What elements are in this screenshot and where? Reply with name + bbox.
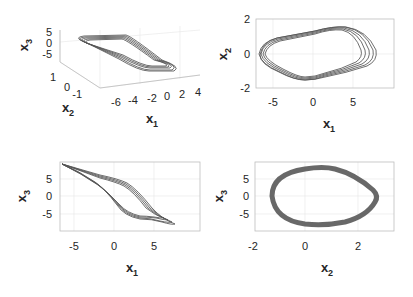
xtick-5: 5 [350,96,356,108]
orbit-3d [79,35,177,71]
panel-x1-x3: 5 0 -5 -5 0 5 x1 x3 [0,150,205,297]
orbit-x1-x2 [259,27,376,80]
zlabel-x3: x3 [16,39,34,51]
ytick-0: 0 [64,81,70,93]
ytick-neg2: -2 [240,82,250,94]
plot-x2-x3-svg: 5 0 -5 -2 0 2 x2 x3 [205,150,413,297]
ylabel-x3: x3 [211,190,229,202]
xtick-neg5: -5 [69,240,79,252]
ytick-2: 2 [244,13,250,25]
xlabel-x1: x1 [146,111,158,129]
xtick-4: 4 [195,86,201,98]
orbit-x1-x3 [62,164,175,224]
ytick-5: 5 [46,173,52,185]
xtick-0: 0 [164,90,170,102]
xtick-2: 2 [179,88,185,100]
axes-box [255,162,394,231]
xlabel-x1: x1 [126,260,138,278]
grid-x1-x3 [60,162,200,231]
ytick-1: 1 [50,71,56,83]
xtick-neg5: -5 [268,96,278,108]
xtick-0: 0 [310,96,316,108]
ztick-neg5: -5 [42,48,52,60]
xtick-neg4: -4 [128,94,138,106]
ylabel-x2: x2 [62,100,74,118]
xtick-neg2: -2 [147,92,157,104]
ytick-0: 0 [46,190,52,202]
ytick-neg5: -5 [239,208,249,220]
axes-box [60,162,200,231]
plot-x1-x2-svg: 2 0 -2 -5 0 5 x1 x2 [205,0,413,145]
ytick-0: 0 [244,48,250,60]
ytick-0: 0 [243,190,249,202]
ytick-neg5: -5 [42,208,52,220]
panel-x1-x2: 2 0 -2 -5 0 5 x1 x2 [205,0,413,145]
grid-x2-x3 [255,162,394,231]
xtick-0: 0 [111,240,117,252]
xtick-neg6: -6 [111,96,121,108]
ytick-5: 5 [243,173,249,185]
ylabel-x2: x2 [215,48,233,60]
plot-3d-svg: 5 0 -5 1 0 -1 -6 -4 -2 0 2 4 x1 x2 x3 [0,0,205,145]
ytick-neg1: -1 [72,88,82,100]
xtick-0: 0 [302,240,308,252]
panel-3d-phase: 5 0 -5 1 0 -1 -6 -4 -2 0 2 4 x1 x2 x3 [0,0,205,145]
xtick-5: 5 [151,240,157,252]
grid-3d [60,26,200,88]
xlabel-x1: x1 [323,116,335,134]
plot-x1-x3-svg: 5 0 -5 -5 0 5 x1 x3 [0,150,205,297]
xtick-neg2: -2 [248,240,258,252]
xtick-2: 2 [355,240,361,252]
ylabel-x3: x3 [14,190,32,202]
xlabel-x2: x2 [321,260,333,278]
panel-x2-x3: 5 0 -5 -2 0 2 x2 x3 [205,150,413,297]
